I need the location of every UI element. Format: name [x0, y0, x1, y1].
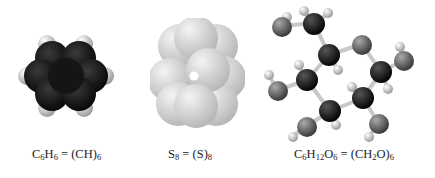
sulfur-model — [150, 18, 245, 130]
sulfur-formula: S8 = (S)8 — [168, 147, 212, 162]
glucose-model — [262, 0, 432, 145]
benzene-formula: C6H6 = (CH)6 — [32, 147, 101, 162]
glucose-formula: C6H12O6 = (CH2O)6 — [294, 147, 394, 162]
benzene-model — [14, 26, 119, 126]
